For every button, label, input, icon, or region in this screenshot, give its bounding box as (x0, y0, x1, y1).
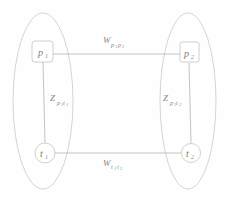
node-t1[interactable] (35, 143, 55, 163)
edge-t1-t2-label-sub1: t (111, 163, 113, 170)
edge-t1-t2-label-sub2: t (117, 163, 119, 170)
edge-p2-t2-line (189, 63, 191, 143)
node-t1-subscript: 1 (45, 154, 48, 160)
node-t1-label: t (40, 148, 43, 159)
node-t2-subscript: 2 (191, 154, 194, 160)
edge-p2-t2-label-main: Z (163, 93, 169, 103)
node-p1-label: p (37, 47, 43, 58)
edge-p1-t1-label-sub2: t (63, 99, 65, 106)
graph-diagram: p 1 p 2 t 1 t 2 W p 1 p 2 W t 1 t 2 Z p … (0, 0, 231, 202)
edge-p1-p2-label-sub2-index: 2 (122, 44, 125, 49)
node-p1-subscript: 1 (45, 53, 48, 59)
edge-p2-t2-label-sub2-index: 2 (179, 102, 182, 107)
diagram-canvas: p 1 p 2 t 1 t 2 W p 1 p 2 W t 1 t 2 Z p … (0, 0, 231, 202)
edge-t1-t2-label-sub1-index: 1 (114, 166, 116, 171)
edge-p2-t2-label-sub2: t (176, 99, 178, 106)
edge-p1-p2-label-sub1-index: 1 (115, 44, 117, 49)
node-p2-label: p (183, 48, 189, 59)
node-t2-label: t (186, 148, 189, 159)
edge-t1-t2-label-sub2-index: 2 (120, 166, 123, 171)
right-layer-ellipse (160, 13, 216, 189)
edge-p1-t1-line (43, 62, 45, 143)
edge-p1-t1-label-main: Z (50, 93, 56, 103)
node-p2[interactable] (180, 42, 199, 62)
edge-p1-t1-label-sub2-index: 1 (66, 102, 68, 107)
node-p2-subscript: 2 (191, 54, 194, 60)
